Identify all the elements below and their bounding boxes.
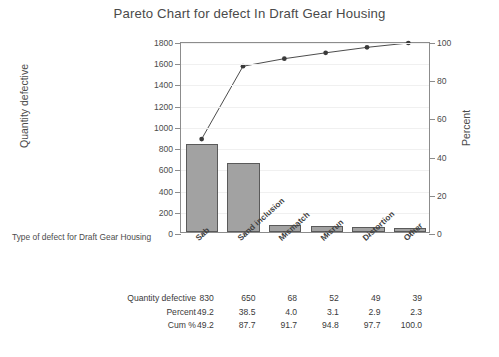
y-axis-tick-left — [175, 213, 181, 214]
y-axis-title-right: Percent — [460, 83, 472, 173]
y-axis-tick-right — [429, 81, 435, 82]
table-cell: 94.8 — [295, 319, 339, 333]
y-axis-tick-left — [175, 85, 181, 86]
y-axis-tick-label-right: 0 — [437, 229, 442, 239]
table-row: Cum %49.287.791.794.897.7100.0 — [0, 319, 499, 333]
cumulative-line-marker — [282, 56, 287, 61]
table-cell: 2.3 — [378, 306, 422, 320]
table-cell: 3.1 — [295, 306, 339, 320]
y-axis-tick-label-left: 400 — [159, 187, 173, 197]
pareto-chart-figure: Pareto Chart for defect In Draft Gear Ho… — [0, 0, 499, 357]
y-axis-tick-right — [429, 119, 435, 120]
table-cell: 49 — [337, 292, 381, 306]
y-axis-tick-label-right: 20 — [437, 191, 447, 201]
table-cell: 100.0 — [378, 319, 422, 333]
table-cell: 97.7 — [337, 319, 381, 333]
x-axis-title: Type of defect for Draft Gear Housing — [12, 232, 151, 242]
y-axis-tick-right — [429, 158, 435, 159]
table-cell: 2.9 — [337, 306, 381, 320]
table-cell: 91.7 — [253, 319, 297, 333]
table-cell: 49.2 — [170, 306, 214, 320]
y-axis-tick-label-left: 1000 — [154, 123, 173, 133]
y-axis-tick-label-left: 1800 — [154, 38, 173, 48]
gridline — [181, 128, 429, 129]
table-row-label: Cum % — [0, 319, 196, 333]
y-axis-tick-label-left: 0 — [168, 229, 173, 239]
y-axis-tick-left — [175, 170, 181, 171]
y-axis-tick-left — [175, 149, 181, 150]
table-cell: 39 — [378, 292, 422, 306]
gridline — [181, 107, 429, 108]
table-cell: 650 — [212, 292, 256, 306]
y-axis-tick-label-left: 1400 — [154, 80, 173, 90]
gridline — [181, 85, 429, 86]
table-cell: 52 — [295, 292, 339, 306]
table-row-label: Quantity defective — [0, 292, 196, 306]
plot-area: 0200400600800100012001400160018000204060… — [180, 42, 430, 233]
table-row: Percent49.238.54.03.12.92.3 — [0, 306, 499, 320]
gridline — [181, 149, 429, 150]
y-axis-tick-left — [175, 128, 181, 129]
y-axis-tick-right — [429, 196, 435, 197]
y-axis-tick-label-left: 200 — [159, 208, 173, 218]
chart-title: Pareto Chart for defect In Draft Gear Ho… — [0, 6, 499, 21]
y-axis-tick-label-left: 600 — [159, 165, 173, 175]
y-axis-tick-label-right: 100 — [437, 38, 451, 48]
table-cell: 4.0 — [253, 306, 297, 320]
y-axis-tick-label-right: 40 — [437, 153, 447, 163]
cumulative-line-marker — [365, 45, 370, 50]
cumulative-line-marker — [323, 50, 328, 55]
y-axis-tick-right — [429, 43, 435, 44]
table-row-label: Percent — [0, 306, 196, 320]
y-axis-tick-label-right: 60 — [437, 114, 447, 124]
cumulative-line-path — [202, 43, 409, 139]
table-cell: 830 — [170, 292, 214, 306]
y-axis-tick-right — [429, 234, 435, 235]
data-table: Quantity defective83065068524939Percent4… — [0, 292, 499, 333]
cumulative-percent-line — [181, 43, 429, 232]
cumulative-line-marker — [199, 137, 204, 142]
table-cell: 68 — [253, 292, 297, 306]
y-axis-tick-left — [175, 107, 181, 108]
y-axis-tick-label-left: 1600 — [154, 59, 173, 69]
y-axis-tick-left — [175, 64, 181, 65]
table-cell: 87.7 — [212, 319, 256, 333]
gridline — [181, 170, 429, 171]
table-cell: 49.2 — [170, 319, 214, 333]
table-row: Quantity defective83065068524939 — [0, 292, 499, 306]
gridline — [181, 64, 429, 65]
y-axis-title-left: Quantity defective — [18, 36, 30, 176]
gridline — [181, 43, 429, 44]
y-axis-tick-label-left: 800 — [159, 144, 173, 154]
gridline — [181, 192, 429, 193]
y-axis-tick-label-right: 80 — [437, 76, 447, 86]
table-cell: 38.5 — [212, 306, 256, 320]
y-axis-tick-label-left: 1200 — [154, 102, 173, 112]
y-axis-tick-left — [175, 192, 181, 193]
y-axis-tick-left — [175, 234, 181, 235]
bar — [186, 144, 219, 232]
y-axis-tick-left — [175, 43, 181, 44]
